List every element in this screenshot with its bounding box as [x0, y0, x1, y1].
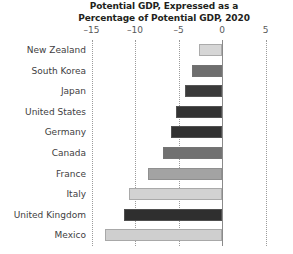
bar-row: Germany [0, 122, 293, 143]
category-label: Mexico [0, 225, 86, 246]
x-tick-label: –15 [77, 25, 107, 35]
bar [129, 188, 222, 200]
chart-container: Potential GDP, Expressed as a Percentage… [0, 0, 293, 254]
x-tick-label: 0 [207, 25, 237, 35]
category-label: France [0, 164, 86, 185]
category-label: United States [0, 102, 86, 123]
chart-title: Potential GDP, Expressed as a Percentage… [40, 1, 288, 24]
bar-row: France [0, 164, 293, 185]
bar [185, 85, 222, 97]
bar-row: United Kingdom [0, 205, 293, 226]
bar-row: New Zealand [0, 40, 293, 61]
category-label: Germany [0, 122, 86, 143]
bar-row: Canada [0, 143, 293, 164]
category-label: Canada [0, 143, 86, 164]
bar [171, 126, 222, 138]
bar-row: Italy [0, 184, 293, 205]
category-label: South Korea [0, 61, 86, 82]
bar [176, 106, 222, 118]
chart-title-line-2: Percentage of Potential GDP, 2020 [40, 13, 288, 25]
category-label: Italy [0, 184, 86, 205]
bar [105, 229, 222, 241]
bar-rows: New ZealandSouth KoreaJapanUnited States… [0, 40, 293, 246]
x-tick-label: –5 [164, 25, 194, 35]
category-label: Japan [0, 81, 86, 102]
bar [163, 147, 222, 159]
bar [192, 65, 222, 77]
x-tick-label: 5 [251, 25, 281, 35]
x-tick-label: –10 [120, 25, 150, 35]
chart-title-line-1: Potential GDP, Expressed as a [40, 1, 288, 13]
category-label: New Zealand [0, 40, 86, 61]
bar-row: United States [0, 102, 293, 123]
bar-row: Mexico [0, 225, 293, 246]
bar [199, 44, 222, 56]
category-label: United Kingdom [0, 205, 86, 226]
x-axis-tick-labels: –15–10–505 [0, 25, 293, 38]
bar-row: South Korea [0, 61, 293, 82]
bar [148, 168, 222, 180]
plot-area: New ZealandSouth KoreaJapanUnited States… [0, 40, 293, 246]
bar-row: Japan [0, 81, 293, 102]
bar [124, 209, 222, 221]
